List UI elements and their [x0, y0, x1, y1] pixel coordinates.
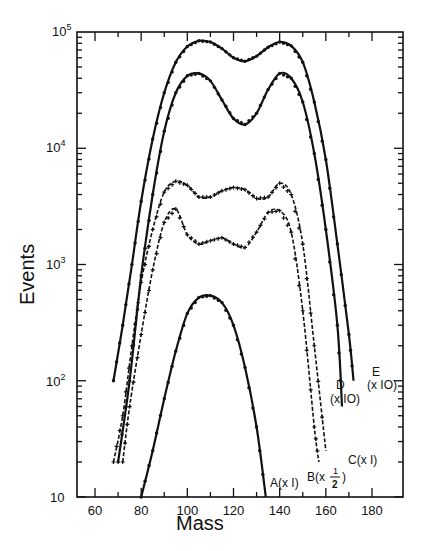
data-point	[274, 42, 277, 45]
data-point	[193, 73, 196, 76]
data-point	[201, 295, 204, 298]
data-point	[121, 460, 125, 464]
y-tick-label-10: 10	[50, 490, 64, 505]
data-point	[317, 178, 320, 181]
data-point	[115, 444, 119, 448]
data-point	[240, 121, 243, 124]
data-point	[133, 241, 136, 244]
data-point	[151, 193, 154, 196]
curve-label-e-scale: (x IO)	[367, 378, 397, 392]
y-tick-label-100: 102	[46, 372, 65, 389]
data-point	[297, 55, 300, 58]
data-point	[137, 220, 140, 223]
data-point	[309, 311, 313, 315]
data-point	[163, 91, 166, 94]
series-line	[123, 209, 319, 462]
data-point	[347, 333, 350, 336]
data-point	[328, 187, 331, 190]
data-point	[270, 82, 273, 85]
data-point	[170, 211, 174, 215]
data-point	[286, 43, 289, 46]
data-point	[197, 296, 200, 299]
data-point	[340, 273, 343, 276]
data-point	[320, 415, 324, 419]
data-point	[174, 349, 177, 352]
data-point	[270, 210, 274, 214]
data-point	[166, 116, 169, 119]
data-point	[205, 40, 208, 43]
data-point	[209, 40, 212, 43]
data-point	[208, 239, 212, 243]
data-point	[178, 216, 182, 220]
data-point	[243, 246, 247, 250]
x-tick-label: 180	[361, 503, 383, 518]
data-point	[247, 386, 250, 389]
data-point	[205, 77, 208, 80]
data-point	[258, 449, 261, 452]
data-point	[174, 60, 177, 63]
data-point	[205, 295, 208, 298]
data-point	[305, 348, 309, 352]
data-point	[209, 79, 212, 82]
data-point	[232, 117, 235, 120]
data-point	[112, 379, 115, 382]
data-point	[261, 473, 264, 476]
data-point	[147, 289, 151, 293]
data-point	[236, 338, 239, 341]
data-point	[315, 449, 319, 453]
data-point	[201, 74, 204, 77]
curve-label-d-scale: (x IO)	[330, 392, 360, 406]
data-point	[278, 72, 281, 75]
x-tick-label: 120	[223, 503, 245, 518]
data-point	[155, 171, 158, 174]
data-point	[312, 425, 316, 429]
data-point	[139, 200, 142, 203]
data-point	[274, 186, 278, 190]
data-point	[251, 56, 254, 59]
data-point	[143, 178, 146, 181]
series-a	[139, 294, 265, 499]
data-point	[313, 100, 316, 103]
data-point	[336, 324, 339, 327]
data-point	[197, 242, 201, 246]
data-point	[190, 43, 193, 46]
data-point	[190, 73, 193, 76]
data-point	[220, 236, 224, 240]
data-point	[220, 47, 223, 50]
curve-label-b-close: )	[342, 470, 346, 484]
plot-frame	[77, 32, 403, 497]
data-point	[247, 240, 251, 244]
data-point	[263, 48, 266, 51]
data-point	[332, 215, 335, 218]
curve-labels: A(x I) B(x 1 2 ) C(x I) D (x IO) E (x IO…	[270, 365, 397, 490]
data-point	[309, 388, 313, 392]
data-point	[247, 119, 250, 122]
data-point	[266, 46, 269, 49]
series-b	[121, 207, 320, 464]
data-point	[320, 139, 323, 142]
data-point	[178, 55, 181, 58]
data-point	[182, 50, 185, 53]
data-point	[247, 58, 250, 61]
data-point	[130, 263, 133, 266]
data-point	[224, 309, 227, 312]
data-point	[309, 135, 312, 138]
data-point	[139, 495, 142, 498]
data-point	[314, 437, 318, 441]
data-point	[201, 40, 204, 43]
data-point	[163, 130, 166, 133]
data-point	[120, 433, 123, 436]
data-point	[232, 185, 236, 189]
data-point	[293, 85, 296, 88]
data-point	[174, 179, 178, 183]
data-point	[324, 228, 327, 231]
data-point	[147, 219, 150, 222]
series-line	[118, 73, 342, 462]
data-point	[301, 100, 304, 103]
curve-label-c: C(x I)	[348, 453, 377, 467]
data-point	[186, 45, 189, 48]
y-axis-title: Events	[16, 244, 38, 305]
y-tick-label-100000: 105	[52, 22, 71, 39]
data-point	[182, 182, 186, 186]
data-point	[278, 40, 281, 43]
